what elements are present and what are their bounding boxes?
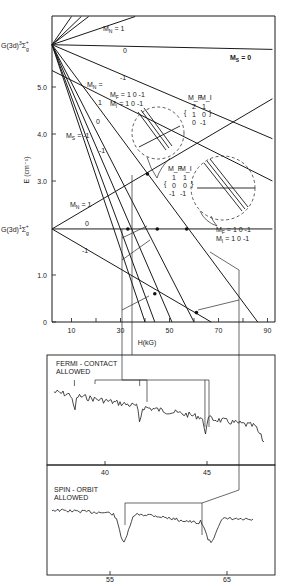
guide-line [198, 300, 239, 310]
inset-lower-brace-left: { [164, 180, 167, 188]
inset-upper-row2-mf: 1 [192, 111, 196, 118]
x-tick-label: 90 [264, 327, 272, 334]
inset-lower-mi-header: M_I [180, 165, 192, 173]
crossing-point [146, 172, 150, 176]
x-axis-label: H(kG) [138, 339, 157, 347]
annotation-mf-right: MF = 1 0 -1 [216, 226, 251, 235]
inset-upper-row2-mi: 0 [202, 111, 206, 118]
inset-upper-row1-mf: 2 [192, 103, 196, 110]
x-tick-label: 50 [166, 327, 174, 334]
annotation-mn-minus1-lower: -1 [82, 247, 88, 254]
guide-line [210, 252, 239, 270]
level-line [52, 17, 89, 45]
inset-lower-row1-mi: 1 [183, 174, 187, 181]
inset-lower-row2-mi: 0 [183, 182, 187, 189]
upper-level-label: G(3d)3Σg+ [1, 39, 29, 52]
spectrum2-frame [47, 465, 275, 575]
annotation-mn0-lower: 0 [85, 220, 89, 227]
figure: 01.03.04.05.0 1030507090 G(3d)3Σg+ G(3d)… [0, 0, 288, 582]
inset-upper-row3-mf: 0 [192, 119, 196, 126]
inset-upper-split-line-3 [144, 108, 172, 146]
annotation-minus1: -1 [99, 147, 105, 154]
y-tick-label: 0 [43, 319, 47, 326]
spectrum2-tick-label: 65 [223, 576, 231, 582]
level-line [52, 229, 211, 322]
annotation-mf-upper: MF = 1 0 -1 [110, 91, 145, 100]
crossing-point [185, 227, 189, 231]
inset-lower-brace-right: } [191, 180, 194, 188]
x-tick-label: 70 [215, 327, 223, 334]
guide-line [202, 490, 239, 503]
spectrum1-tick-label: 40 [101, 469, 109, 476]
guide-line [122, 240, 150, 260]
energy-level-plot: 01.03.04.05.0 1030507090 G(3d)3Σg+ G(3d)… [1, 16, 275, 535]
spectrum-spin-orbit: SPIN - ORBIT ALLOWED 5565 [47, 465, 275, 582]
inset-lower: M_F M_I { } 1 1 0 0 -1 -1 [164, 156, 255, 226]
spectrum2-trace [52, 509, 253, 542]
spectrum2-tick-label: 55 [106, 576, 114, 582]
inset-upper-mi-header: M_I [200, 94, 212, 102]
annotation-mn1-lower: MN = 1 [70, 201, 91, 210]
annotation-ms-minus1: MS = -1 [66, 132, 89, 141]
spectrum1-tick-label: 45 [203, 469, 211, 476]
crossing-point [155, 227, 159, 231]
level-line [52, 45, 172, 322]
inset-lower-row2-mf: 0 [172, 182, 176, 189]
annotation-mi-right: MI = 1 0 -1 [216, 235, 249, 244]
level-line [52, 17, 72, 45]
level-line [52, 17, 81, 45]
inset-upper-brace-left: { [184, 109, 187, 117]
guide-line [122, 296, 149, 310]
annotation-mn1-upper: MN = 1 [103, 25, 124, 34]
x-tick-label: 30 [117, 327, 125, 334]
annotation-mn-eq: MN = [87, 81, 103, 90]
y-tick-label: 3.0 [37, 178, 47, 185]
level-line [52, 71, 272, 181]
inset-lower-row3-mi: -1 [180, 190, 186, 197]
inset-upper-split-line-1 [138, 112, 166, 150]
inset-upper-pointer [147, 157, 170, 178]
inset-lower-pointer [200, 211, 217, 226]
y-tick-label: 4.0 [37, 131, 47, 138]
annotation-one: 1 [98, 99, 102, 106]
inset-upper-row1-mi: 1 [202, 103, 206, 110]
inset-upper-row3-mi: -1 [200, 119, 206, 126]
annotation-mn0-upper: 0 [123, 47, 127, 54]
annotation-ms0: MS = 0 [230, 54, 251, 63]
inset-lower-split-line-2 [207, 161, 245, 209]
inset-lower-row1-mf: 1 [172, 174, 176, 181]
level-line [52, 99, 272, 229]
spectrum1-title-line1: FERMI - CONTACT [56, 360, 118, 367]
lower-level-label: G(3d)1Σg+ [1, 223, 29, 236]
crossing-point [126, 227, 130, 231]
inset-lower-split-line-1 [204, 163, 242, 211]
x-tick-label: 10 [68, 327, 76, 334]
inset-upper-split-line-2 [141, 110, 169, 148]
crossing-point [153, 292, 157, 296]
spectrum1-trace [54, 390, 264, 442]
crossing-point [195, 311, 199, 315]
spectrum2-title-line2: ALLOWED [54, 494, 88, 501]
annotation-mn-minus1-upper: -1 [120, 74, 126, 81]
annotation-zero: 0 [96, 118, 100, 125]
spectrum-fermi-contact: FERMI - CONTACT ALLOWED 4045 [47, 355, 275, 476]
y-axis-label: E (cm⁻¹) [23, 157, 31, 184]
level-line [52, 45, 272, 50]
spectrum1-title-line2: ALLOWED [56, 368, 90, 375]
y-tick-label: 1.0 [37, 272, 47, 279]
inset-lower-row3-mf: -1 [169, 190, 175, 197]
y-tick-label: 5.0 [37, 84, 47, 91]
spectrum2-title-line1: SPIN - ORBIT [54, 486, 99, 493]
